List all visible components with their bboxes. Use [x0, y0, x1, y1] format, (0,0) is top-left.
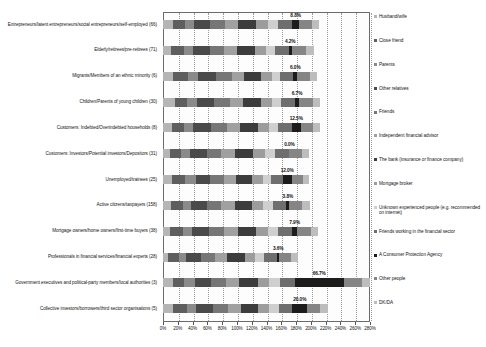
stacked-bar[interactable] — [163, 175, 309, 184]
category-label: Mortgage owners/home owners/first-time b… — [1, 228, 157, 234]
bar-segment — [268, 20, 278, 29]
bar-segment — [179, 253, 186, 262]
legend-item[interactable]: Parents — [374, 62, 484, 68]
legend-label: DK/DA — [379, 300, 393, 306]
bar-segment — [163, 227, 170, 236]
bar-segment — [210, 175, 224, 184]
stacked-bar[interactable] — [163, 98, 320, 107]
stacked-bar[interactable] — [163, 46, 314, 55]
bar-segment — [211, 123, 227, 132]
bar-segment — [297, 227, 310, 236]
legend-item[interactable]: Unknown experienced people (e.g. recomme… — [374, 205, 484, 216]
legend-item[interactable]: Friends working in the financial sector — [374, 229, 484, 235]
bar-row — [163, 90, 370, 116]
stacked-bar[interactable] — [163, 20, 320, 29]
bar-segment — [230, 98, 243, 107]
legend-item[interactable]: Independent financial advisor — [374, 133, 484, 139]
legend-item[interactable]: Other people — [374, 276, 484, 282]
x-tick-label: 180% — [290, 326, 301, 332]
legend-swatch-icon — [374, 230, 377, 233]
x-tick-label: 40% — [188, 326, 197, 332]
bar-row — [163, 245, 370, 271]
bar-segment — [279, 253, 291, 262]
data-label: 12.0% — [281, 168, 294, 173]
x-tick-label: 100% — [231, 326, 242, 332]
bar-segment — [196, 175, 211, 184]
bar-segment — [256, 20, 268, 29]
bar-segment — [172, 123, 184, 132]
bar-segment — [194, 20, 210, 29]
legend-item[interactable]: Close friend — [374, 38, 484, 44]
bar-row — [163, 115, 370, 141]
legend-item[interactable]: A Consumer Protection Agency — [374, 252, 484, 258]
stacked-bar[interactable] — [163, 304, 328, 313]
bar-rows: 8.8%4.2%6.0%6.7%12.5%0.0%12.0%3.8%7.9%3.… — [163, 12, 370, 322]
bar-segment — [173, 72, 188, 81]
legend-item[interactable]: Husband/wife — [374, 14, 484, 20]
legend-item[interactable]: Friends — [374, 109, 484, 115]
x-tick-label: 20% — [173, 326, 182, 332]
x-tick-label: 0% — [160, 326, 166, 332]
legend-item[interactable]: Other relatives — [374, 86, 484, 92]
bar-segment — [252, 201, 263, 210]
legend-swatch-icon — [374, 111, 377, 114]
stacked-bar[interactable] — [163, 149, 309, 158]
legend-swatch-icon — [374, 15, 377, 18]
bar-segment — [226, 278, 239, 287]
bar-segment — [236, 175, 252, 184]
bar-segment — [170, 227, 183, 236]
legend-swatch-icon — [374, 254, 377, 257]
bar-segment — [235, 149, 253, 158]
stacked-bar[interactable] — [163, 201, 310, 210]
bar-segment — [227, 253, 245, 262]
stacked-bar[interactable] — [163, 278, 371, 287]
legend-item[interactable]: DK/DA — [374, 300, 484, 306]
data-label: 0.0% — [284, 142, 295, 147]
bar-segment — [216, 72, 232, 81]
bar-segment — [191, 201, 207, 210]
data-label: 8.8% — [290, 13, 301, 18]
category-label: Collective investors/borrowers/third sec… — [1, 306, 157, 312]
bar-segment — [201, 253, 215, 262]
bar-segment — [163, 123, 172, 132]
bar-segment — [215, 253, 228, 262]
category-axis-labels: Entrepreneurs/latent entrepreneurs/socia… — [2, 12, 160, 322]
legend-swatch-icon — [374, 134, 377, 137]
bar-segment — [279, 304, 292, 313]
bar-segment — [237, 46, 255, 55]
legend-swatch-icon — [374, 301, 377, 304]
bar-segment — [281, 98, 294, 107]
bar-segment — [172, 175, 185, 184]
stacked-bar[interactable] — [163, 72, 317, 81]
bar-segment — [187, 98, 197, 107]
stacked-bar[interactable] — [163, 253, 298, 262]
bar-segment — [184, 46, 193, 55]
category-label: Migrants/Members of an ethnic minority (… — [1, 73, 157, 79]
bar-segment — [196, 304, 212, 313]
bar-segment — [320, 304, 327, 313]
bar-segment — [306, 46, 314, 55]
bar-segment — [163, 20, 173, 29]
x-tick-label: 140% — [261, 326, 272, 332]
legend-label: Independent financial advisor — [379, 133, 438, 139]
bar-segment — [173, 278, 185, 287]
stacked-bar[interactable] — [163, 123, 320, 132]
bar-row — [163, 193, 370, 219]
bar-segment — [275, 149, 289, 158]
bar-segment — [175, 98, 188, 107]
bar-segment — [213, 304, 229, 313]
bar-segment — [184, 123, 194, 132]
bar-segment — [264, 253, 277, 262]
legend-item[interactable]: The bank (insurance or finance company) — [374, 157, 484, 163]
bar-segment — [258, 278, 270, 287]
bar-segment — [261, 72, 271, 81]
bar-segment — [163, 72, 173, 81]
bar-row — [163, 141, 370, 167]
stacked-bar[interactable] — [163, 227, 318, 236]
legend-swatch-icon — [374, 206, 377, 209]
category-label: Customers: Investors/Potential investors… — [1, 151, 157, 157]
bar-segment — [227, 123, 240, 132]
category-label: Entrepreneurs/latent entrepreneurs/socia… — [1, 22, 157, 28]
bar-segment — [185, 175, 195, 184]
legend-item[interactable]: Mortgage broker — [374, 181, 484, 187]
